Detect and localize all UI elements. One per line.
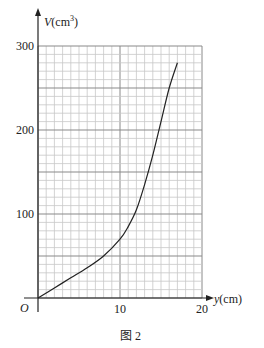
figure-caption: 图 2: [120, 329, 141, 343]
labels: V(cm3) y(cm) O 图 2: [20, 14, 242, 343]
y-tick-label: 100: [16, 207, 34, 221]
x-tick-label: 10: [114, 302, 126, 316]
y-axis-arrow-icon: [35, 8, 41, 16]
x-tick-label: 20: [196, 302, 208, 316]
x-axis-arrow-icon: [206, 295, 214, 301]
y-tick-label: 300: [16, 39, 34, 53]
grid: [38, 46, 202, 298]
chart: V(cm3) y(cm) O 图 2 1002003001020: [0, 0, 264, 348]
x-axis-label: y(cm): [213, 292, 242, 306]
y-axis-label: V(cm3): [44, 14, 78, 29]
y-tick-label: 200: [16, 123, 34, 137]
origin-label: O: [20, 301, 29, 315]
